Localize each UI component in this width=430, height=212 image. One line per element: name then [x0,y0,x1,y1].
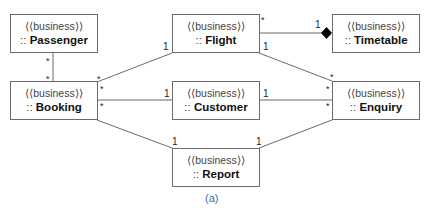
assoc-flight-enquiry [259,53,332,81]
mult-report-enquiry-report: 1 [256,137,262,147]
class-passenger: ⟨⟨business⟩⟩ :: Passenger [10,14,98,53]
mult-passenger-booking-top: * [46,56,50,66]
class-report: ⟨⟨business⟩⟩ :: Report [172,148,260,187]
class-name: :: Timetable [344,33,407,47]
class-name: :: Passenger [20,33,88,47]
stereotype-label: ⟨⟨business⟩⟩ [347,87,404,100]
stereotype-label: ⟨⟨business⟩⟩ [25,20,82,33]
mult-booking-flight-booking: * [97,74,101,84]
mult-booking-flight-flight: 1 [163,42,169,52]
mult-customer-enquiry-enquiry: * [326,84,330,94]
assoc-booking-report [97,120,172,148]
class-booking: ⟨⟨business⟩⟩ :: Booking [10,81,98,120]
class-name: :: Flight [196,33,237,47]
mult-booking-customer-customer: 1 [164,89,170,99]
mult-flight-enquiry-enquiry: * [330,72,334,82]
stereotype-label: ⟨⟨business⟩⟩ [25,87,82,100]
mult-flight-enquiry-flight: 1 [263,42,269,52]
class-name: :: Enquiry [350,100,402,114]
class-enquiry: ⟨⟨business⟩⟩ :: Enquiry [332,81,420,120]
composition-diamond-icon [321,27,332,39]
figure-caption: (a) [205,192,218,204]
mult-passenger-booking-bottom: * [46,74,50,84]
class-flight: ⟨⟨business⟩⟩ :: Flight [172,14,260,53]
mult-flight-timetable-timetable: 1 [315,20,321,30]
mult-report-enquiry-enquiry: * [326,101,330,111]
class-name: :: Report [193,167,240,181]
class-name: :: Booking [26,100,82,114]
stereotype-label: ⟨⟨business⟩⟩ [187,154,244,167]
mult-booking-customer-booking: * [100,84,104,94]
mult-booking-report-report: 1 [172,137,178,147]
mult-flight-timetable-flight: * [261,15,265,25]
class-timetable: ⟨⟨business⟩⟩ :: Timetable [332,14,420,53]
assoc-booking-flight [97,53,172,82]
class-customer: ⟨⟨business⟩⟩ :: Customer [172,81,260,120]
stereotype-label: ⟨⟨business⟩⟩ [347,20,404,33]
assoc-report-enquiry [259,120,332,148]
stereotype-label: ⟨⟨business⟩⟩ [187,20,244,33]
mult-booking-report-booking: * [100,101,104,111]
mult-customer-enquiry-customer: 1 [263,89,269,99]
class-name: :: Customer [184,100,247,114]
stereotype-label: ⟨⟨business⟩⟩ [187,87,244,100]
